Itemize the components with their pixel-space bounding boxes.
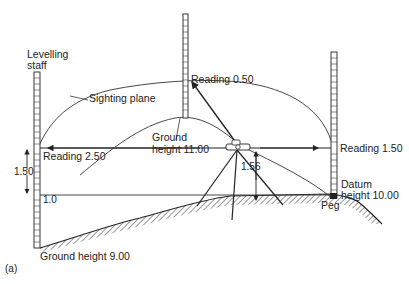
peg-label: Peg bbox=[321, 199, 340, 211]
figure-caption: (a) bbox=[5, 263, 17, 274]
sighting-plane-label: Sighting plane bbox=[89, 92, 156, 104]
reading-middle-label: Reading 0.50 bbox=[191, 73, 254, 85]
left-difference-label: 1.50 bbox=[14, 166, 34, 177]
left-staff-mark-label: 1.0 bbox=[43, 194, 57, 205]
right-staff bbox=[330, 52, 337, 199]
instrument-height-label: 1.56 bbox=[241, 161, 261, 172]
reading-right-label: Reading 1.50 bbox=[340, 142, 403, 154]
ground-mid-label-1: Ground bbox=[152, 131, 187, 143]
datum-label-2: height 10.00 bbox=[341, 189, 399, 201]
right-curve bbox=[245, 148, 332, 198]
level-instrument bbox=[226, 140, 250, 150]
levelling-diagram: Levelling staff Sighting plane Reading 2… bbox=[0, 0, 409, 284]
left-staff bbox=[34, 72, 40, 248]
levelling-staff-label-2: staff bbox=[27, 59, 47, 71]
middle-staff bbox=[183, 14, 188, 118]
ground-mid-label-2: height 11.00 bbox=[152, 143, 209, 155]
ground-left-label: Ground height 9.00 bbox=[40, 250, 130, 262]
reading-left-label: Reading 2.50 bbox=[43, 150, 106, 162]
sighting-plane-leader bbox=[70, 96, 88, 100]
reading-middle-sight bbox=[192, 82, 237, 144]
